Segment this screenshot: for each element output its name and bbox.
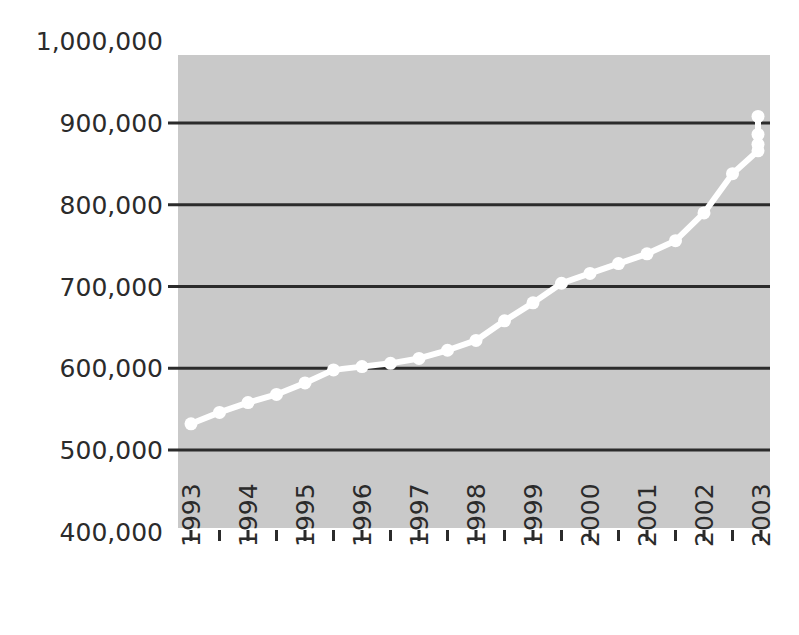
data-point-marker <box>270 388 283 401</box>
x-axis-tick-label: 2003 <box>747 483 776 547</box>
data-point-marker <box>413 352 426 365</box>
data-point-marker <box>527 296 540 309</box>
x-axis-tick-label: 1994 <box>234 483 263 547</box>
data-point-marker <box>612 257 625 270</box>
plot-area-background <box>178 55 770 528</box>
x-axis-tick-label: 1999 <box>519 483 548 547</box>
y-axis-tick-labels: 1,000,000900,000800,000700,000600,000500… <box>36 27 163 547</box>
data-point-marker <box>185 417 198 430</box>
chart-figure: 1,000,000900,000800,000700,000600,000500… <box>0 0 799 635</box>
data-point-marker <box>726 167 739 180</box>
data-point-marker <box>752 128 765 141</box>
x-axis-tick-label: 1996 <box>348 483 377 547</box>
line-chart: 1,000,000900,000800,000700,000600,000500… <box>0 0 799 635</box>
data-point-marker <box>584 267 597 280</box>
data-point-marker <box>242 396 255 409</box>
data-point-marker <box>498 314 511 327</box>
y-axis-tick-label: 500,000 <box>60 436 163 465</box>
data-point-marker <box>641 247 654 260</box>
y-axis-tick-label: 700,000 <box>60 273 163 302</box>
data-point-marker <box>384 357 397 370</box>
data-point-marker <box>555 277 568 290</box>
data-point-marker <box>441 344 454 357</box>
data-point-marker <box>327 363 340 376</box>
y-axis-tick-label: 800,000 <box>60 191 163 220</box>
y-axis-tick-label: 900,000 <box>60 109 163 138</box>
y-axis-tick-label: 1,000,000 <box>36 27 163 56</box>
data-point-marker <box>698 206 711 219</box>
data-point-marker <box>299 376 312 389</box>
x-axis-tick-label: 1993 <box>177 483 206 547</box>
y-axis-tick-label: 600,000 <box>60 354 163 383</box>
data-point-marker <box>470 334 483 347</box>
x-axis-tick-label: 1997 <box>405 483 434 547</box>
data-point-marker <box>213 406 226 419</box>
x-axis-tick-label: 2001 <box>633 483 662 547</box>
y-axis-tick-marks <box>168 123 178 450</box>
data-point-marker <box>356 360 369 373</box>
data-point-marker <box>752 110 765 123</box>
x-axis-tick-label: 1998 <box>462 483 491 547</box>
x-axis-tick-label: 2002 <box>690 483 719 547</box>
y-axis-tick-label: 400,000 <box>60 518 163 547</box>
data-point-marker <box>669 234 682 247</box>
x-axis-tick-label: 1995 <box>291 483 320 547</box>
x-axis-tick-label: 2000 <box>576 483 605 547</box>
